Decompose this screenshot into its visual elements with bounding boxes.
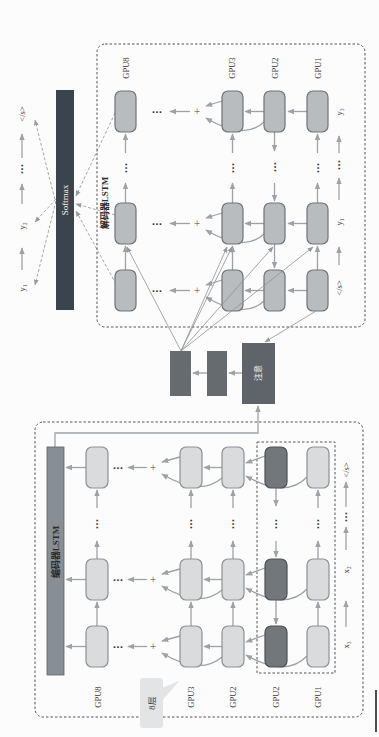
- encoder-layer-label-gpu2: GPU2: [228, 686, 238, 707]
- decoder-to-softmax-arrows: [76, 113, 116, 284]
- decoder-cell-gpu2: [264, 203, 285, 244]
- ellipsis: ···: [121, 163, 131, 173]
- encoder-input-sequence: </s> ··· x₂ x₃: [341, 462, 351, 648]
- encoder-layer-label-gpu8: GPU8: [93, 686, 103, 707]
- ellipsis: ···: [113, 463, 123, 473]
- decoder-input-start: </s>: [334, 280, 344, 295]
- gnmt-architecture-diagram: y₁ y₂ ··· </s> Softmax 解码器LSTM GPU8 GPU3…: [0, 0, 379, 737]
- encoder-cell-gpu3: [180, 626, 202, 667]
- encoder-cell-gpu2: [222, 626, 244, 667]
- encoder-backward-cell-gpu2: [265, 559, 287, 600]
- encoder-to-attention-arrow: [55, 406, 258, 447]
- ellipsis: ···: [341, 512, 351, 522]
- layer-count-callout: 8层: [140, 678, 179, 728]
- residual-arrow: [162, 457, 180, 462]
- ellipsis: ···: [152, 286, 162, 296]
- decoder-cells: [115, 91, 328, 311]
- encoder-backward-cell-gpu2: [265, 447, 287, 488]
- residual-plus: +: [150, 463, 157, 472]
- encoder-cell-gpu3: [180, 447, 202, 488]
- ellipsis: ···: [313, 163, 323, 173]
- context-arrow: [181, 247, 273, 351]
- residual-arrow: [162, 636, 180, 641]
- output-label-y2: y₂: [17, 222, 27, 229]
- encoder-cells: [86, 447, 329, 667]
- residual-plus: +: [150, 642, 157, 651]
- residual-arrow: [206, 101, 222, 106]
- encoder-recurrent-arrows: ··· ··· ··· ··· ···: [92, 488, 323, 626]
- residual-plus: +: [194, 107, 201, 116]
- residual-arrow: [162, 569, 180, 574]
- decoder-layer-label-gpu8: GPU8: [121, 57, 131, 78]
- decoder-cell-gpu3: [222, 203, 243, 244]
- decoder-title: 解码器LSTM: [99, 176, 110, 229]
- encoder-cell-gpu2: [222, 559, 244, 600]
- softmax-layer: Softmax: [56, 90, 74, 310]
- residual-arrow: [206, 213, 222, 218]
- callout-pointer: [162, 681, 179, 701]
- decoder-layer-label-gpu3: GPU3: [227, 57, 237, 78]
- dashed-arrow: [35, 199, 56, 222]
- encoder-backward-cell-gpu2: [265, 626, 287, 667]
- encoder-cell-gpu2: [222, 447, 244, 488]
- decoder-cell-gpu8: [115, 270, 136, 311]
- ellipsis: ···: [152, 219, 162, 229]
- decoder-layer-label-gpu2: GPU2: [270, 57, 280, 78]
- encoder-cell-gpu1: [307, 447, 329, 488]
- dashed-arrow: [35, 120, 56, 204]
- decoder-input-y1: y₁: [334, 218, 344, 225]
- decoder-cell-gpu3: [222, 91, 243, 132]
- ellipsis: ···: [228, 163, 238, 173]
- attention-block: 注意: [127, 247, 316, 404]
- encoder-cell-gpu8: [86, 626, 108, 667]
- ellipsis: ···: [152, 107, 162, 117]
- output-ellipsis: ···: [17, 164, 27, 174]
- encoder-cell-gpu8: [86, 447, 108, 488]
- encoder-input-end: </s>: [341, 462, 351, 477]
- arrow: [246, 568, 265, 575]
- encoder-cell-gpu1: [307, 626, 329, 667]
- encoder-cell-gpu1: [307, 559, 329, 600]
- decoder-to-attention-arrow: [265, 311, 316, 342]
- residual-plus: +: [194, 286, 201, 295]
- decoder-recurrent-arrows: ··· ··· ··· ···: [121, 132, 323, 270]
- encoder-cell-gpu3: [180, 559, 202, 600]
- context-arrow: [181, 247, 227, 351]
- output-sequence: y₁ y₂ ··· </s>: [17, 106, 27, 291]
- encoder-cell-gpu8: [86, 559, 108, 600]
- encoder-input-x2: x₂: [341, 566, 351, 573]
- attention-label: 注意: [253, 365, 263, 381]
- output-label-end: </s>: [17, 106, 27, 121]
- ellipsis: ···: [334, 160, 344, 170]
- ellipsis: ···: [228, 519, 238, 529]
- ellipsis: ···: [270, 162, 280, 172]
- decoder-cell-gpu1: [307, 270, 328, 311]
- ellipsis: ···: [186, 519, 196, 529]
- arrow: [246, 635, 265, 642]
- residual-plus: +: [150, 575, 157, 584]
- output-label-y1: y₁: [17, 284, 27, 291]
- encoder-title: 编码器LSTM: [50, 525, 61, 578]
- context-box: [170, 351, 191, 396]
- decoder-cell-gpu8: [115, 91, 136, 132]
- softmax-to-output-arrows: [35, 120, 56, 285]
- encoder-block: 编码器LSTM ··· ··· ··· ··· ···: [35, 406, 363, 728]
- decoder-cell-gpu2: [264, 270, 285, 311]
- softmax-label: Softmax: [60, 184, 70, 215]
- attention-weights-box: [207, 351, 227, 396]
- decoder-cell-gpu2: [264, 91, 285, 132]
- ellipsis: ···: [92, 519, 102, 529]
- decoder-cell-gpu1: [307, 203, 328, 244]
- ellipsis: ···: [271, 519, 281, 529]
- arrow: [246, 456, 265, 463]
- decoder-cell-gpu1: [307, 91, 328, 132]
- encoder-layer-label-gpu2-backward: GPU2: [271, 686, 281, 707]
- decoder-input-sequence: </s> y₁ ··· y₃: [334, 108, 344, 295]
- diagram-svg: y₁ y₂ ··· </s> Softmax 解码器LSTM GPU8 GPU3…: [0, 0, 379, 737]
- dashed-arrow: [35, 201, 56, 285]
- decoder-block: 解码器LSTM GPU8 GPU3 GPU2 GPU1 ··· ··· ··· …: [97, 44, 365, 327]
- encoder-layer-label-gpu3: GPU3: [186, 686, 196, 707]
- encoder-input-x3: x₃: [341, 641, 351, 648]
- residual-plus: +: [194, 219, 201, 228]
- callout-label: 8层: [147, 696, 157, 709]
